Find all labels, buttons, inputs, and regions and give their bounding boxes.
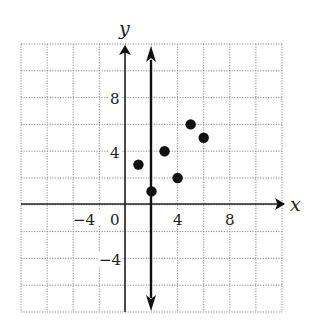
data-point: [159, 146, 169, 156]
data-point: [146, 186, 156, 196]
scatter-plot: −4 0 4 8 8 4 −4 x y: [0, 0, 318, 333]
data-point: [133, 159, 143, 169]
y-tick-8: 8: [110, 90, 120, 108]
data-points: [133, 119, 209, 196]
origin-label: 0: [110, 211, 120, 229]
data-point: [199, 133, 209, 143]
x-axis-label: x: [290, 193, 301, 215]
data-point: [185, 119, 195, 129]
x-tick-4: 4: [173, 211, 183, 229]
y-tick-4: 4: [110, 144, 120, 162]
x-tick-neg4: −4: [73, 211, 95, 229]
x-tick-8: 8: [225, 211, 235, 229]
data-point: [172, 173, 182, 183]
y-tick-neg4: −4: [99, 251, 121, 269]
y-axis-label: y: [118, 17, 130, 39]
